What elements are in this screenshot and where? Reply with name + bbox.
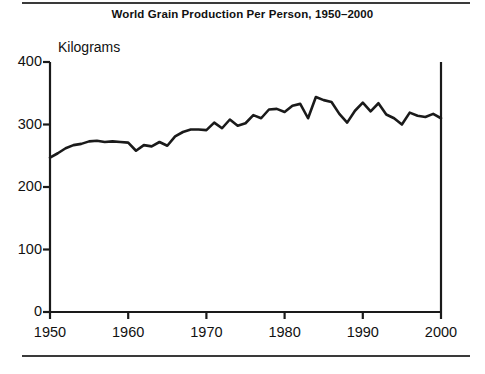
axis-lines	[50, 62, 441, 312]
x-tick-label: 1990	[333, 324, 393, 340]
y-tick-label: 200	[2, 178, 42, 194]
x-tick-label: 2000	[411, 324, 471, 340]
chart-plot	[0, 0, 485, 374]
x-tick-label: 1960	[98, 324, 158, 340]
figure-container: World Grain Production Per Person, 1950–…	[0, 0, 485, 374]
y-tick-label: 100	[2, 241, 42, 257]
y-tick-label: 400	[2, 53, 42, 69]
bottom-divider-rule	[22, 355, 470, 357]
y-tick-label: 0	[2, 303, 42, 319]
y-tick-label: 300	[2, 116, 42, 132]
x-tick-label: 1950	[20, 324, 80, 340]
x-tick-label: 1970	[176, 324, 236, 340]
data-series-line	[50, 97, 441, 158]
x-tick-label: 1980	[255, 324, 315, 340]
